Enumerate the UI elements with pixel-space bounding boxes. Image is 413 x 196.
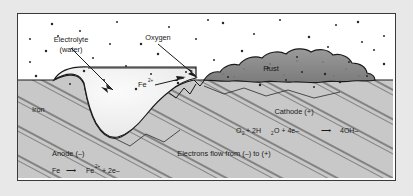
- oxygen-label: Oxygen: [145, 33, 170, 42]
- rust-label: Rust: [263, 64, 280, 73]
- figure-frame: Electrolyte (water) Oxygen Rust Iron Fe …: [17, 13, 396, 181]
- oxygen-dot: [259, 84, 262, 87]
- oxygen-dot: [357, 21, 360, 24]
- oxygen-dot: [83, 70, 86, 73]
- cathode-eq-product: 4OH–: [340, 127, 358, 134]
- oxygen-dot: [366, 75, 368, 77]
- oxygen-dot: [301, 71, 303, 73]
- oxygen-dot: [241, 50, 244, 53]
- oxygen-dot: [29, 61, 31, 63]
- oxygen-dot: [45, 50, 48, 53]
- oxygen-dot: [324, 73, 327, 76]
- oxygen-dot: [116, 21, 118, 23]
- oxygen-dot: [383, 35, 385, 37]
- anode-eq-product-tail: + 2e–: [102, 167, 120, 174]
- corrosion-diagram: Electrolyte (water) Oxygen Rust Iron Fe …: [18, 14, 393, 178]
- figure-page: Electrolyte (water) Oxygen Rust Iron Fe …: [0, 0, 413, 196]
- oxygen-dot: [253, 33, 255, 35]
- oxygen-dot: [313, 86, 315, 88]
- anode-heading: Anode (–): [52, 149, 84, 158]
- cathode-eq-plus1: + 2H: [246, 127, 261, 134]
- cathode-eq-o-sub: 2: [242, 131, 245, 136]
- ferrous-ion-symbol: Fe: [138, 80, 147, 89]
- oxygen-dot: [335, 24, 337, 26]
- electron-flow-label: Electrons flow from (–) to (+): [177, 149, 270, 158]
- oxygen-dot: [285, 79, 287, 81]
- oxygen-dot: [383, 63, 386, 66]
- cathode-heading: Cathode (+): [274, 107, 313, 116]
- oxygen-dot: [361, 41, 363, 43]
- anode-eq-product-symbol: Fe: [86, 167, 94, 174]
- oxygen-dot: [168, 26, 170, 28]
- ferrous-ion-charge: 2+: [148, 78, 154, 83]
- oxygen-dot: [157, 53, 160, 56]
- oxygen-dot: [308, 36, 311, 39]
- anode-eq-arrow: ⟶: [66, 167, 76, 174]
- oxygen-dot: [29, 38, 31, 40]
- oxygen-dot: [51, 23, 54, 26]
- oxygen-dot: [373, 49, 375, 51]
- oxygen-dot: [222, 22, 225, 25]
- iron-label: Iron: [32, 105, 45, 114]
- oxygen-dot: [279, 19, 281, 21]
- oxygen-dot: [69, 83, 71, 85]
- oxygen-dot: [150, 73, 152, 75]
- oxygen-dot: [348, 61, 350, 63]
- oxygen-dot: [177, 82, 180, 85]
- oxygen-dot: [135, 88, 138, 91]
- anode-eq-product-charge: 2+: [95, 164, 101, 169]
- oxygen-dot: [185, 71, 187, 73]
- oxygen-dot: [213, 59, 215, 61]
- cathode-eq-o2: O + 4e–: [274, 127, 299, 134]
- oxygen-dot: [92, 57, 94, 59]
- oxygen-dot: [227, 76, 229, 78]
- oxygen-dot: [109, 43, 111, 45]
- oxygen-dot: [140, 43, 143, 46]
- oxygen-dot: [207, 19, 209, 21]
- oxygen-dot: [195, 38, 197, 40]
- electrolyte-label-line2: (water): [60, 45, 83, 54]
- oxygen-dot: [296, 56, 298, 58]
- anode-eq-reactant: Fe: [52, 167, 60, 174]
- oxygen-dot: [79, 30, 81, 32]
- oxygen-dot: [35, 75, 38, 78]
- electrolyte-label-line1: Electrolyte: [54, 35, 89, 44]
- cathode-eq-arrow: ⟶: [321, 127, 331, 134]
- iron-body: [18, 75, 393, 178]
- oxygen-dot: [125, 65, 127, 67]
- oxygen-dot: [339, 81, 342, 84]
- oxygen-dot: [327, 46, 329, 48]
